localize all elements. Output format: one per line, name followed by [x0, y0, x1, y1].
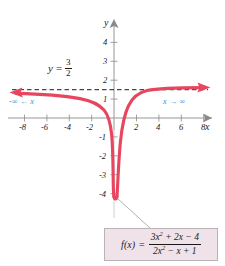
formula-denominator: 2x2 − x + 1 — [151, 246, 199, 257]
right-end-behavior-annotation: x → ∞ — [163, 98, 185, 106]
y-tick-label--3: -3 — [99, 171, 106, 180]
x-tick-label--4: -4 — [64, 123, 71, 132]
y-tick-label-2: 2 — [103, 76, 107, 85]
formula-equals: = — [139, 239, 145, 250]
formula-fraction-bar — [149, 244, 201, 245]
formula-fraction: 3x2 + 2x − 4 2x2 − x + 1 — [149, 232, 201, 257]
y-tick-label-1: 1 — [103, 95, 107, 104]
rational-function-graph — [0, 0, 225, 266]
asymptote-label: y = 3 2 — [48, 58, 72, 79]
x-tick-label-2: 2 — [134, 123, 138, 132]
asymptote-label-equals: = — [56, 63, 62, 74]
y-tick-label--1: -1 — [99, 133, 106, 142]
y-tick-label-3: 3 — [103, 57, 107, 66]
asymptote-label-lhs: y — [48, 63, 53, 74]
y-tick-label--2: -2 — [99, 152, 106, 161]
y-tick-label--4: -4 — [99, 190, 106, 199]
y-axis-label: y — [104, 18, 108, 28]
y-tick-label-4: 4 — [103, 38, 107, 47]
x-tick-label-4: 4 — [156, 123, 160, 132]
curve-right-branch — [117, 88, 202, 197]
x-tick-label--8: -8 — [19, 123, 26, 132]
asymptote-fraction: 3 2 — [65, 58, 72, 79]
asymptote-numerator: 3 — [65, 58, 72, 67]
formula-numerator: 3x2 + 2x − 4 — [149, 232, 201, 243]
formula-denominator-term: 2x — [153, 246, 162, 256]
formula-callout-box: f(x) = 3x2 + 2x − 4 2x2 − x + 1 — [104, 228, 218, 261]
asymptote-denominator: 2 — [65, 69, 72, 78]
x-tick-label-6: 6 — [179, 123, 183, 132]
x-tick-label--6: -6 — [41, 123, 48, 132]
formula-numerator-term: 3x — [151, 232, 160, 242]
callout-leader-line — [117, 198, 150, 228]
formula-numerator-rest: + 2x − 4 — [163, 232, 199, 242]
x-axis-label: x — [205, 122, 209, 132]
left-end-behavior-annotation: -∞ ← x — [9, 98, 34, 106]
formula-denominator-rest: − x + 1 — [165, 246, 196, 256]
formula-function-name: f(x) — [121, 239, 135, 250]
curve-left-branch — [16, 93, 114, 196]
x-tick-label--2: -2 — [86, 123, 93, 132]
